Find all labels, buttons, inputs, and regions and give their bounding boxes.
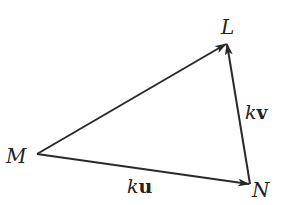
vector-edge-ml xyxy=(37,44,226,154)
vertex-label-m: M xyxy=(5,144,27,168)
kv-scalar: k xyxy=(245,101,257,123)
ku-vector: u xyxy=(139,175,153,197)
vector-triangle-diagram: M L N kv ku xyxy=(0,0,287,205)
ku-scalar: k xyxy=(127,175,139,197)
vertex-label-l: L xyxy=(220,15,234,39)
edge-label-kv: kv xyxy=(245,101,269,123)
vertex-label-n: N xyxy=(251,178,271,202)
edge-label-ku: ku xyxy=(127,175,153,197)
kv-vector: v xyxy=(256,101,269,123)
